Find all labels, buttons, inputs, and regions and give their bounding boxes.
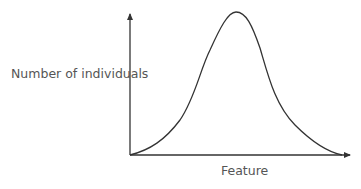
- chart-canvas: [0, 0, 361, 189]
- x-axis-label: Feature: [221, 163, 268, 178]
- distribution-curve: [130, 12, 342, 155]
- y-axis-label: Number of individuals: [11, 66, 148, 81]
